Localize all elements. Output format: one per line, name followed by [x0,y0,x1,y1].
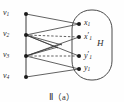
vertex-dot-v2 [24,33,28,37]
edge-v2-x1 [26,24,79,35]
vertex-dot-v1 [24,12,28,16]
bipartite-graph-figure: v1v2v3v4x1x′1y′1y1 H Ⅱ（a） [0,0,124,102]
edge-v3-y1 [26,56,79,69]
vertex-dot-v4 [24,75,28,79]
right-vertex-label-y1p: y′1 [84,51,92,61]
vertex-dot-x1 [77,22,81,26]
right-vertex-label-x1: x1 [84,19,90,28]
graph-canvas [0,0,124,102]
edge-v4-y1 [26,69,79,77]
edge-v2-stub-b [26,35,58,48]
right-vertex-label-y1: y1 [84,64,90,73]
left-vertex-label-v2: v2 [3,30,9,39]
left-vertex-label-v1: v1 [3,9,9,18]
edge-v1-x1 [26,14,79,24]
edge-v3-stub-b [26,47,58,56]
vertex-dot-x1p [77,35,81,39]
region-label-h: H [97,39,104,48]
vertex-dot-y1p [77,54,81,58]
solid-edges [26,14,79,77]
left-vertex-label-v4: v4 [3,72,9,81]
left-vertex-label-v3: v3 [3,51,9,60]
right-vertex-label-x1p: x′1 [84,32,92,42]
edge-v2-x1p-dashed [26,35,79,37]
vertex-dot-y1 [77,67,81,71]
figure-caption: Ⅱ（a） [0,93,124,102]
vertex-dot-v3 [24,54,28,58]
